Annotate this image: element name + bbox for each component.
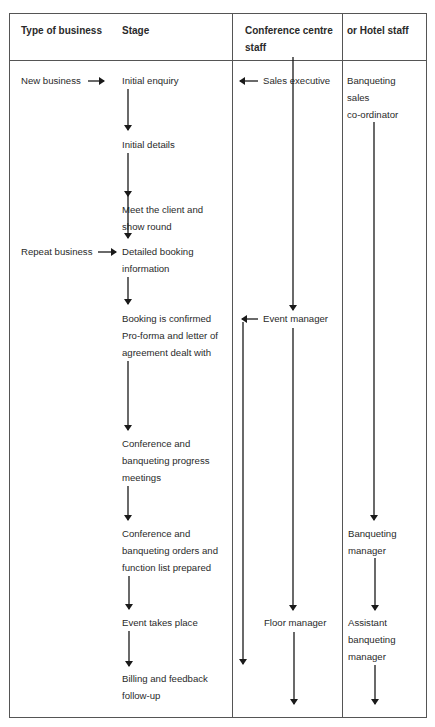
flow-arrows [0, 0, 435, 727]
